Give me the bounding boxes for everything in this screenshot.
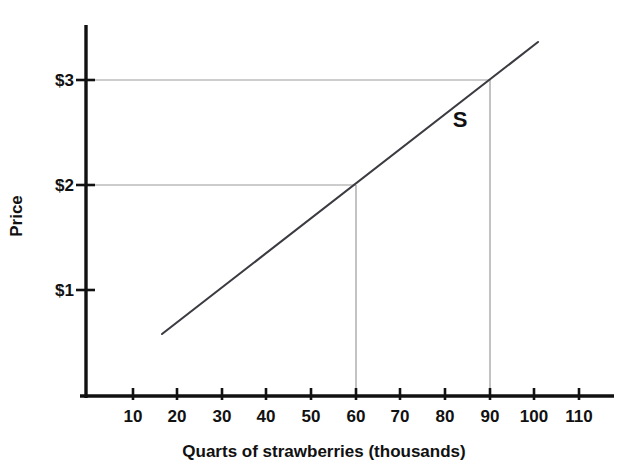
y-tick-label-1: $1 <box>44 282 74 299</box>
x-tick-label-60: 60 <box>347 408 366 425</box>
x-tick-label-40: 40 <box>257 408 276 425</box>
x-tick-label-110: 110 <box>565 408 592 425</box>
y-tick-label-3: $3 <box>44 72 74 89</box>
x-tick-label-100: 100 <box>520 408 548 425</box>
x-tick-label-20: 20 <box>168 408 187 425</box>
x-axis-title: Quarts of strawberries (thousands) <box>182 443 465 460</box>
supply-curve-line <box>162 42 538 334</box>
supply-curve-chart: $3 $2 $1 10 20 30 40 50 60 70 80 90 100 … <box>0 0 624 470</box>
supply-curve-label: S <box>453 109 468 131</box>
x-tick-label-70: 70 <box>391 408 410 425</box>
y-tick-label-2: $2 <box>44 177 74 194</box>
x-tick-label-50: 50 <box>302 408 321 425</box>
x-tick-label-30: 30 <box>213 408 232 425</box>
chart-plot-area <box>0 0 624 470</box>
x-tick-label-80: 80 <box>436 408 455 425</box>
x-tick-label-90: 90 <box>481 408 500 425</box>
x-tick-label-10: 10 <box>124 408 143 425</box>
y-axis-title: Price <box>8 195 25 237</box>
